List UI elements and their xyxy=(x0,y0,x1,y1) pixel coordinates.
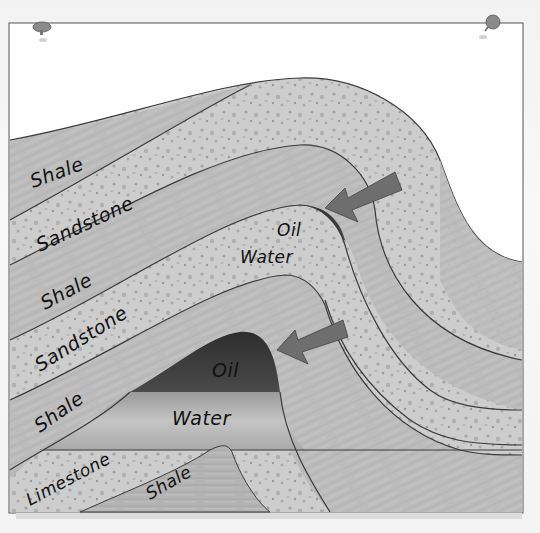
label-oil-upper: Oil xyxy=(277,220,301,240)
label-oil-lower: Oil xyxy=(212,359,239,381)
frame-shadow xyxy=(16,513,522,519)
label-water-lower: Water xyxy=(172,407,232,429)
label-water-upper: Water xyxy=(240,247,293,267)
oil-trap-diagram: Shale Sandstone Oil Water Shale Sandston… xyxy=(0,0,540,533)
